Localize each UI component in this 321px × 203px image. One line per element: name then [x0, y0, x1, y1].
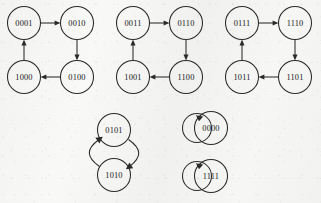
node-label: 0011	[124, 19, 141, 28]
node-label: 0110	[177, 19, 194, 28]
edge-0100-to-1000	[41, 75, 61, 80]
component-cycle-0101: 0101 1010	[89, 114, 138, 192]
edge-1001-to-0011	[131, 40, 136, 61]
node-label: 0000	[202, 124, 219, 133]
node-label: 1001	[124, 73, 141, 82]
node-label: 1101	[286, 73, 303, 82]
node-label: 0101	[105, 126, 122, 135]
component-cycle-0011: 0011 0110 1100 1001	[117, 7, 203, 94]
edge-1100-to-1001	[150, 75, 170, 80]
node-label: 0001	[15, 19, 32, 28]
component-cycle-0001: 0001 0010 0100 1000	[8, 7, 94, 94]
node-1110[interactable]: 1110	[279, 7, 312, 40]
node-label: 1111	[203, 172, 219, 181]
edge-0011-to-0110	[150, 21, 170, 26]
node-label: 0100	[68, 73, 85, 82]
node-0011[interactable]: 0011	[117, 7, 150, 40]
node-label: 1011	[233, 73, 250, 82]
edge-1000-to-0001	[22, 40, 27, 61]
node-0101[interactable]: 0101	[98, 114, 131, 147]
node-0000[interactable]: 0000	[195, 112, 228, 145]
component-cycle-0111: 0111 1110 1101 1011	[226, 7, 312, 94]
node-label: 1110	[287, 19, 304, 28]
edge-0101-to-1010	[126, 140, 139, 170]
edge-1101-to-1011	[259, 75, 279, 80]
node-0001[interactable]: 0001	[8, 7, 41, 40]
node-label: 1000	[15, 73, 32, 82]
component-fixed-point-1111: 1111	[183, 160, 228, 193]
state-diagram-page: 0001 0010 0100 1000	[0, 0, 321, 203]
node-1111[interactable]: 1111	[195, 160, 228, 193]
node-0100[interactable]: 0100	[61, 61, 94, 94]
node-1000[interactable]: 1000	[8, 61, 41, 94]
node-0010[interactable]: 0010	[61, 7, 94, 40]
edge-1110-to-1101	[293, 40, 298, 61]
component-fixed-point-0000: 0000	[183, 112, 228, 145]
node-1001[interactable]: 1001	[117, 61, 150, 94]
node-label: 1010	[105, 171, 122, 180]
edge-0111-to-1110	[259, 21, 279, 26]
edge-1011-to-0111	[240, 40, 245, 61]
node-1100[interactable]: 1100	[170, 61, 203, 94]
node-1010[interactable]: 1010	[98, 159, 131, 192]
state-transition-graph: 0001 0010 0100 1000	[0, 0, 321, 203]
edge-1010-to-0101	[89, 137, 102, 167]
edge-0010-to-0100	[75, 40, 80, 61]
node-label: 0010	[68, 19, 85, 28]
node-0111[interactable]: 0111	[226, 7, 259, 40]
edge-0110-to-1100	[184, 40, 189, 61]
node-label: 0111	[234, 19, 251, 28]
node-0110[interactable]: 0110	[170, 7, 203, 40]
node-label: 1100	[177, 73, 194, 82]
edge-0001-to-0010	[41, 21, 61, 26]
node-1011[interactable]: 1011	[226, 61, 259, 94]
node-1101[interactable]: 1101	[279, 61, 312, 94]
